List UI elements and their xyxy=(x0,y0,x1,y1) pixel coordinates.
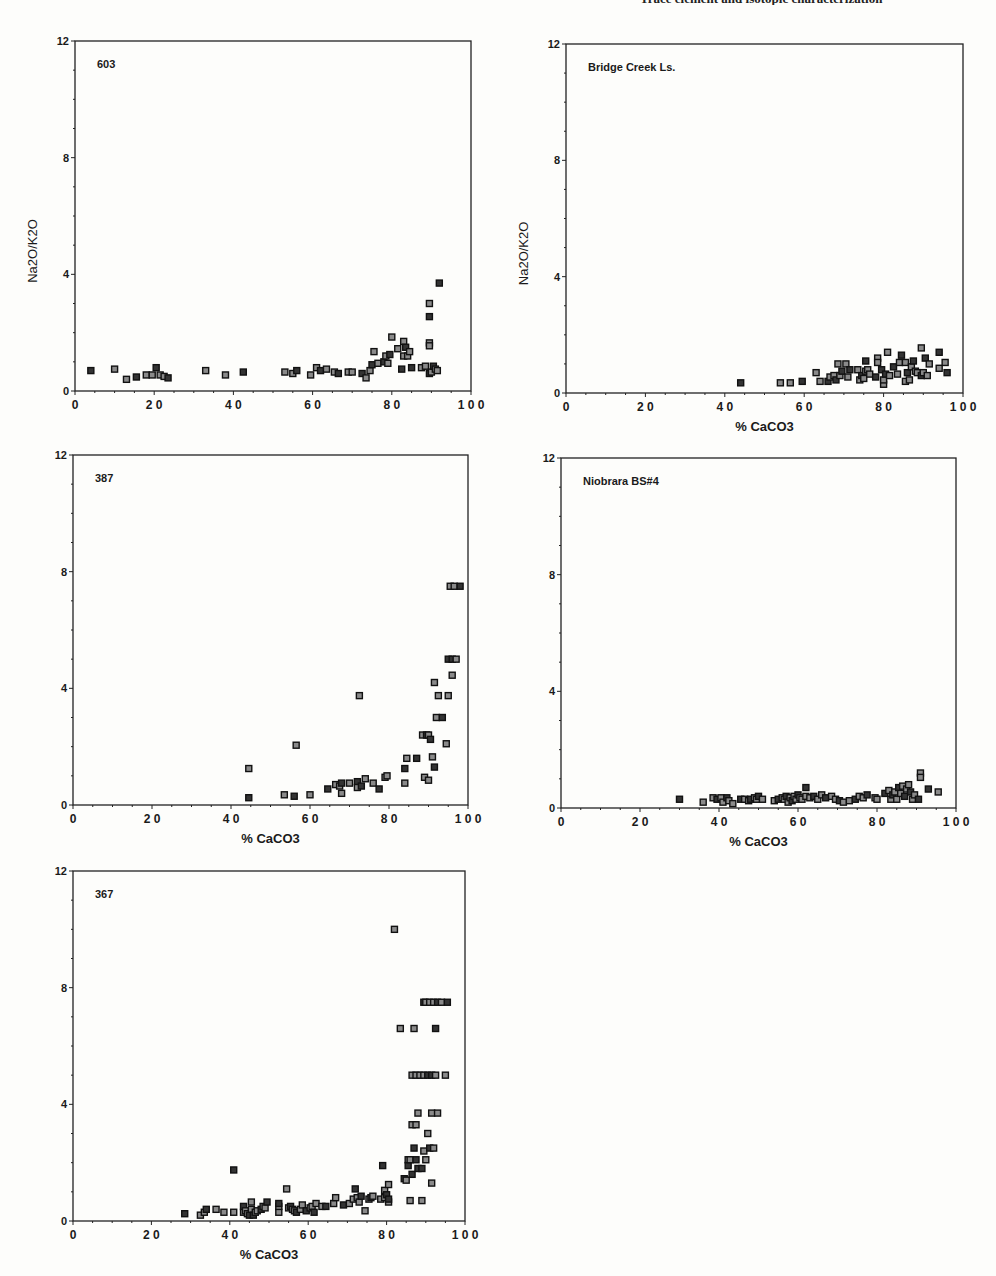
data-point-square xyxy=(861,375,867,381)
data-point-square xyxy=(354,779,360,785)
data-point-square xyxy=(368,1195,374,1201)
data-point-square xyxy=(333,782,339,788)
scatter-plot-bridge-creek: 02 04 06 08 01 0 004812Bridge Creek Ls.%… xyxy=(0,0,996,1276)
data-point-square xyxy=(386,1199,392,1205)
plot-title: 367 xyxy=(95,888,113,900)
data-point-square xyxy=(429,1072,435,1078)
y-tick-label: 4 xyxy=(63,268,70,280)
data-point-square xyxy=(831,373,837,379)
data-point-square xyxy=(425,1072,431,1078)
data-point-square xyxy=(429,754,435,760)
data-point-square xyxy=(439,715,445,721)
data-point-square xyxy=(307,1205,313,1211)
scatter-plot-603: 02 04 06 08 01 0 004812603Na2O/K2O xyxy=(0,0,996,1276)
data-point-square xyxy=(843,361,849,367)
data-point-square xyxy=(433,1026,439,1032)
data-point-square xyxy=(250,1212,256,1218)
data-point-square xyxy=(401,1176,407,1182)
data-point-square xyxy=(290,1206,296,1212)
data-point-square xyxy=(856,793,862,799)
data-point-square xyxy=(748,796,754,802)
data-point-square xyxy=(402,766,408,772)
data-point-square xyxy=(846,798,852,804)
data-point-square xyxy=(318,368,324,374)
data-point-square xyxy=(799,796,805,802)
data-point-square xyxy=(902,359,908,365)
data-point-square xyxy=(378,1196,384,1202)
data-point-square xyxy=(888,796,894,802)
data-point-square xyxy=(157,372,163,378)
x-tick-label: 6 0 xyxy=(790,815,807,829)
data-point-square xyxy=(409,1072,415,1078)
plot-title: Bridge Creek Ls. xyxy=(588,61,675,73)
data-point-square xyxy=(936,365,942,371)
plot-frame xyxy=(561,458,956,808)
data-point-square xyxy=(803,793,809,799)
data-point-square xyxy=(777,380,783,386)
scatter-plot-niobrara: 02 04 06 08 01 0 004812Niobrara BS#4% Ca… xyxy=(0,0,996,1276)
data-point-square xyxy=(413,1157,419,1163)
x-tick-label: 2 0 xyxy=(146,398,163,412)
data-point-square xyxy=(262,1205,268,1211)
data-point-square xyxy=(248,1206,254,1212)
data-point-square xyxy=(881,377,887,383)
data-point-square xyxy=(426,301,432,307)
data-point-square xyxy=(384,773,390,779)
data-point-square xyxy=(419,1198,425,1204)
y-axis-label: Na2O/K2O xyxy=(25,219,40,283)
data-point-square xyxy=(421,1072,427,1078)
data-point-square xyxy=(399,366,405,372)
data-point-square xyxy=(451,583,457,589)
y-tick-label: 0 xyxy=(63,385,69,397)
data-point-square xyxy=(311,1209,317,1215)
data-point-square xyxy=(240,369,246,375)
data-point-square xyxy=(347,780,353,786)
data-point-square xyxy=(337,783,343,789)
data-point-square xyxy=(892,789,898,795)
data-point-square xyxy=(409,1122,415,1128)
data-point-square xyxy=(720,799,726,805)
data-point-square xyxy=(917,770,923,776)
data-point-square xyxy=(356,693,362,699)
data-point-square xyxy=(435,1110,441,1116)
data-point-square xyxy=(429,1110,435,1116)
data-point-square xyxy=(405,1163,411,1169)
data-point-square xyxy=(833,796,839,802)
data-point-square xyxy=(445,656,451,662)
data-point-square xyxy=(415,1166,421,1172)
x-tick-label: 1 0 0 xyxy=(455,812,482,826)
data-point-square xyxy=(241,1209,247,1215)
data-point-square xyxy=(244,1211,250,1217)
data-point-square xyxy=(428,369,434,375)
data-point-square xyxy=(350,1196,356,1202)
data-point-square xyxy=(413,1122,419,1128)
x-tick-label: 1 0 0 xyxy=(458,398,485,412)
data-point-square xyxy=(284,1186,290,1192)
data-point-square xyxy=(299,1202,305,1208)
data-point-square xyxy=(426,343,432,349)
data-point-square xyxy=(730,801,736,807)
data-point-square xyxy=(910,358,916,364)
data-point-square xyxy=(447,583,453,589)
y-tick-label: 12 xyxy=(548,38,560,50)
data-point-square xyxy=(88,368,94,374)
data-point-square xyxy=(370,1193,376,1199)
x-tick-label: 4 0 xyxy=(225,398,242,412)
data-point-square xyxy=(345,369,351,375)
data-point-square xyxy=(710,795,716,801)
data-point-square xyxy=(807,795,813,801)
data-point-square xyxy=(389,334,395,340)
data-points xyxy=(677,770,942,807)
data-point-square xyxy=(883,371,889,377)
data-point-square xyxy=(908,789,914,795)
data-point-square xyxy=(759,796,765,802)
data-point-square xyxy=(383,353,389,359)
y-tick-label: 12 xyxy=(543,452,555,464)
data-point-square xyxy=(902,378,908,384)
x-tick-label: 1 0 0 xyxy=(943,815,970,829)
data-point-square xyxy=(293,1209,299,1215)
data-point-square xyxy=(386,1196,392,1202)
data-point-square xyxy=(906,377,912,383)
data-point-square xyxy=(403,1177,409,1183)
x-tick-label: 8 0 xyxy=(381,812,398,826)
